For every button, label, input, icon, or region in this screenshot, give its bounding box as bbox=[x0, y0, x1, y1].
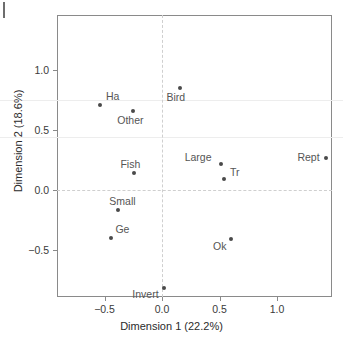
data-point-label: Large bbox=[185, 152, 212, 163]
data-point-label: Bird bbox=[166, 92, 185, 103]
data-point-label: Fish bbox=[120, 159, 140, 170]
data-point-label: Rept bbox=[297, 152, 319, 163]
data-point-label: Tr bbox=[230, 167, 240, 178]
data-point-label: Ha bbox=[106, 91, 119, 102]
y-tick-label: −0.5 bbox=[28, 244, 49, 256]
data-point-label: Ok bbox=[213, 241, 226, 252]
y-tick-mark bbox=[53, 130, 57, 131]
data-point bbox=[116, 208, 120, 212]
data-point-label: Other bbox=[117, 115, 143, 126]
data-point-label: Ge bbox=[115, 224, 129, 235]
plot-area: HaOtherBirdFishLargeTrReptSmallGeOkInver… bbox=[57, 15, 332, 297]
y-tick-label: 0.0 bbox=[34, 184, 49, 196]
data-point-label: Invert bbox=[132, 289, 158, 300]
data-point bbox=[229, 237, 233, 241]
x-tick-mark bbox=[162, 297, 163, 301]
x-tick-mark bbox=[220, 297, 221, 301]
data-point bbox=[98, 103, 102, 107]
x-tick-mark bbox=[105, 297, 106, 301]
gridline-horizontal-1 bbox=[0, 137, 343, 138]
reference-line-y-zero bbox=[57, 190, 332, 191]
x-tick-label: 0.5 bbox=[212, 303, 227, 315]
data-point bbox=[219, 162, 223, 166]
reference-line-x-zero bbox=[162, 15, 163, 297]
data-point-label: Small bbox=[109, 196, 135, 207]
y-tick-label: 1.0 bbox=[34, 64, 49, 76]
page-corner-mark bbox=[3, 2, 5, 18]
data-point bbox=[109, 236, 113, 240]
data-point bbox=[131, 109, 135, 113]
scatter-plot-figure: HaOtherBirdFishLargeTrReptSmallGeOkInver… bbox=[0, 0, 343, 345]
data-point bbox=[222, 177, 226, 181]
x-tick-label: −0.5 bbox=[94, 303, 115, 315]
x-axis-label: Dimension 1 (22.2%) bbox=[0, 320, 343, 332]
y-tick-mark bbox=[53, 70, 57, 71]
x-tick-mark bbox=[277, 297, 278, 301]
data-point bbox=[132, 171, 136, 175]
y-tick-label: 0.5 bbox=[34, 124, 49, 136]
y-tick-mark bbox=[53, 190, 57, 191]
data-point bbox=[162, 286, 166, 290]
y-tick-mark bbox=[53, 250, 57, 251]
x-tick-label: 0.0 bbox=[155, 303, 170, 315]
data-point bbox=[178, 86, 182, 90]
data-point bbox=[324, 156, 328, 160]
y-axis-label: Dimension 2 (18.6%) bbox=[12, 41, 24, 241]
x-tick-label: 1.0 bbox=[270, 303, 285, 315]
